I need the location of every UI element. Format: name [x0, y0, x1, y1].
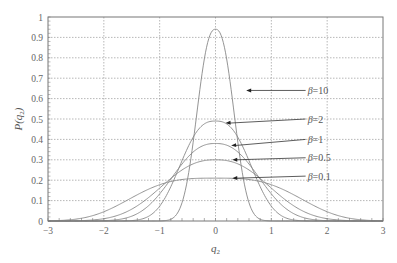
y-tick-label: 0.6 — [31, 94, 43, 104]
arrowhead-icon — [246, 88, 251, 92]
chart: β=10β=2β=1β=0.5β=0.1 −3−2−1012300.10.20.… — [0, 0, 397, 263]
arrowhead-icon — [232, 176, 237, 180]
annotation-arrow-line — [235, 139, 305, 145]
y-tick-label: 0.3 — [31, 155, 43, 165]
y-tick-label: 0.2 — [31, 176, 43, 186]
tick-labels: −3−2−1012300.10.20.30.40.50.60.70.80.91 — [31, 13, 386, 237]
x-axis-title: q2 — [211, 242, 221, 256]
y-tick-label: 1 — [38, 13, 43, 23]
annotation-label: β=2 — [307, 114, 324, 125]
x-tick-label: 1 — [269, 226, 274, 236]
y-axis-title: P(q2) — [12, 107, 26, 131]
x-tick-label: 3 — [381, 226, 386, 236]
y-tick-label: 0 — [38, 217, 43, 227]
y-tick-label: 0.7 — [31, 74, 43, 84]
arrowhead-icon — [232, 158, 237, 162]
annotation-arrow-line — [236, 176, 305, 178]
annotation-label: β=1 — [307, 134, 324, 145]
x-tick-label: −3 — [43, 226, 53, 236]
y-tick-label: 0.8 — [31, 53, 43, 63]
arrowhead-icon — [226, 121, 231, 125]
y-tick-label: 0.4 — [31, 135, 43, 145]
x-tick-label: 0 — [213, 226, 218, 236]
curve-0-1 — [48, 178, 383, 221]
annotation-arrow-line — [230, 119, 306, 123]
annotation-label: β=0.1 — [307, 171, 331, 182]
x-tick-label: −1 — [155, 226, 165, 236]
y-tick-label: 0.5 — [31, 115, 43, 125]
y-tick-label: 0.9 — [31, 33, 43, 43]
x-tick-label: 2 — [325, 226, 330, 236]
x-tick-label: −2 — [99, 226, 109, 236]
y-tick-label: 0.1 — [31, 196, 43, 206]
grid-lines — [48, 17, 383, 221]
arrowhead-icon — [231, 143, 236, 147]
annotation-label: β=10 — [307, 85, 329, 96]
annotation-label: β=0.5 — [307, 152, 331, 163]
curve-0-5 — [48, 160, 383, 221]
